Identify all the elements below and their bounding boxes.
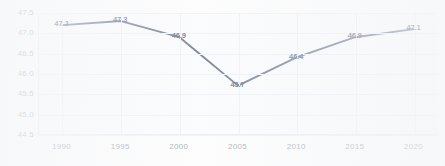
y-axis-tick-label: 46.5 <box>18 49 34 58</box>
gridline-vertical <box>239 13 240 134</box>
gridline-vertical <box>297 13 298 134</box>
y-axis-tick-label: 45.0 <box>18 110 34 119</box>
data-point-label: 46.9 <box>172 31 186 40</box>
data-point-label: 47.3 <box>113 15 127 24</box>
y-axis-tick-label: 47.0 <box>18 28 34 37</box>
gridline-vertical <box>62 13 63 134</box>
data-point-label: 45.7 <box>230 80 244 89</box>
data-point-label: 46.9 <box>348 31 362 40</box>
data-point-label: 47.2 <box>54 19 68 28</box>
y-axis-tick-label: 45.5 <box>18 89 34 98</box>
y-axis-tick-label: 47.5 <box>18 8 34 17</box>
x-axis-tick-label: 2015 <box>345 142 364 151</box>
y-axis-tick-label: 46.0 <box>18 69 34 78</box>
line-chart: 47.547.046.546.045.545.044.5 19901995200… <box>0 0 445 166</box>
x-axis-tick-label: 1990 <box>52 142 71 151</box>
gridline-vertical <box>121 13 122 134</box>
x-axis-tick-label: 2005 <box>228 142 247 151</box>
x-axis-tick-label: 2010 <box>287 142 306 151</box>
gridline-horizontal <box>39 135 437 136</box>
y-axis-tick-label: 44.5 <box>18 130 34 139</box>
x-axis-tick-label: 2020 <box>404 142 423 151</box>
x-axis-tick-label: 1995 <box>111 142 130 151</box>
data-point-label: 47.1 <box>406 23 420 32</box>
x-axis-tick-label: 2000 <box>169 142 188 151</box>
data-point-label: 46.4 <box>289 52 303 61</box>
plot-area <box>38 13 437 135</box>
